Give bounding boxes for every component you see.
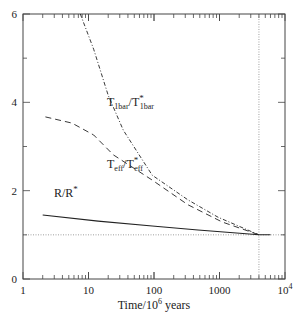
axis-tick-labels: 11010010001040246 <box>12 8 293 296</box>
series-layer <box>43 14 271 235</box>
series-label-2: R/R* <box>54 184 78 200</box>
series-label-1: Teff/T*eff <box>107 155 143 173</box>
plot-border <box>23 14 285 279</box>
x-tick-label: 104 <box>278 282 293 296</box>
series-labels: T1bar/T*1barTeff/T*effR/R* <box>54 93 154 200</box>
reference-lines <box>23 14 285 279</box>
series-line-0 <box>80 14 259 235</box>
y-tick-label: 0 <box>12 273 18 285</box>
y-tick-label: 2 <box>12 185 18 197</box>
y-tick-label: 4 <box>12 96 18 108</box>
x-tick-label: 1000 <box>209 284 232 296</box>
x-axis-label: Time/106 years <box>118 297 191 312</box>
x-tick-label: 10 <box>83 284 95 296</box>
x-tick-label: 100 <box>146 284 163 296</box>
x-tick-label: 1 <box>20 284 26 296</box>
axis-ticks <box>23 14 285 279</box>
series-line-2 <box>43 215 271 235</box>
y-tick-label: 6 <box>12 8 18 20</box>
series-label-0: T1bar/T*1bar <box>107 93 154 111</box>
chart: 11010010001040246 T1bar/T*1barTeff/T*eff… <box>0 0 302 319</box>
series-line-1 <box>45 117 259 235</box>
plot-frame <box>23 14 285 279</box>
